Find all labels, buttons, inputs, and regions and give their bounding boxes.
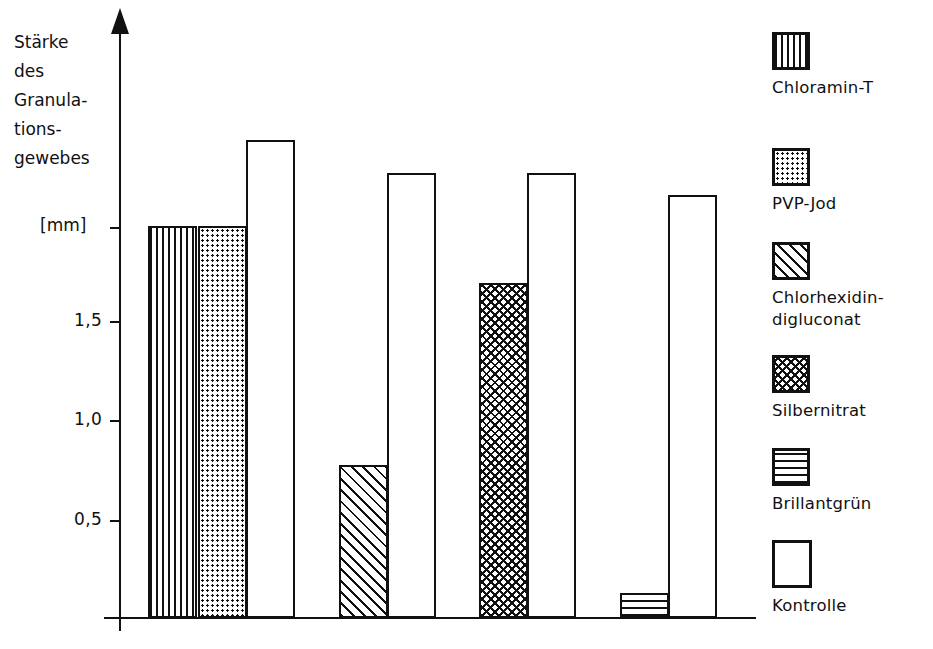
bar-kontrolle-1 — [246, 140, 295, 618]
bar-pvp-jod — [198, 226, 247, 618]
legend-swatch-cross-hatch-icon — [772, 355, 810, 393]
legend-label-chloramin-t: Chloramin-T — [772, 77, 933, 99]
bar-chloramin-t — [148, 226, 197, 618]
bar-chlorhexidin-digluconat — [339, 465, 388, 618]
y-axis-title-line-3: Granula- — [14, 86, 110, 115]
legend-label-line-2: digluconat — [772, 309, 933, 331]
legend-label-silbernitrat: Silbernitrat — [772, 400, 933, 422]
legend-label-line-1: Chlorhexidin- — [772, 287, 933, 309]
legend-item-pvp-jod: PVP-Jod — [772, 148, 933, 215]
legend-item-chloramin-t: Chloramin-T — [772, 32, 933, 99]
legend-swatch-empty-icon — [772, 540, 812, 588]
y-tick-0-5 — [110, 520, 121, 522]
legend-swatch-vertical-lines-icon — [772, 32, 810, 70]
legend-label-brillantgruen: Brillantgrün — [772, 493, 933, 515]
legend-item-silbernitrat: Silbernitrat — [772, 355, 933, 422]
y-tick-1-0 — [110, 420, 121, 422]
bar-kontrolle-2 — [387, 173, 436, 618]
legend-label-pvp-jod: PVP-Jod — [772, 193, 933, 215]
y-tick-label-0-5: 0,5 — [34, 509, 102, 529]
legend-item-brillantgruen: Brillantgrün — [772, 448, 933, 515]
y-tick-label-1-0: 1,0 — [34, 409, 102, 429]
legend: Chloramin-T PVP-Jod Chlorhexidin- digluc… — [772, 0, 933, 649]
legend-item-chlorhexidin-digluconat: Chlorhexidin- digluconat — [772, 242, 933, 331]
legend-swatch-diagonal-hatch-icon — [772, 242, 810, 280]
bar-silbernitrat — [479, 283, 528, 618]
bar-kontrolle-4 — [668, 195, 717, 618]
y-tick-label-1-5: 1,5 — [34, 310, 102, 330]
origin-tick — [119, 617, 121, 631]
bar-kontrolle-3 — [527, 173, 576, 618]
legend-swatch-dots-icon — [772, 148, 810, 186]
y-axis-title-line-2: des — [14, 57, 110, 86]
legend-label-chlorhexidin-digluconat: Chlorhexidin- digluconat — [772, 287, 933, 331]
y-tick-2-0 — [110, 227, 121, 229]
bar-chart: Stärke des Granula- tions- gewebes [mm] … — [0, 0, 933, 649]
legend-label-kontrolle: Kontrolle — [772, 595, 933, 617]
y-axis-title: Stärke des Granula- tions- gewebes — [14, 28, 110, 173]
y-axis-unit-label: [mm] — [40, 215, 86, 235]
y-axis-line — [119, 18, 121, 620]
y-axis-title-line-1: Stärke — [14, 28, 110, 57]
y-tick-1-5 — [110, 321, 121, 323]
y-axis-title-line-4: tions- — [14, 115, 110, 144]
y-axis-title-line-5: gewebes — [14, 144, 110, 173]
legend-swatch-horizontal-lines-icon — [772, 448, 810, 486]
bar-brillantgruen — [620, 593, 669, 618]
legend-item-kontrolle: Kontrolle — [772, 540, 933, 617]
